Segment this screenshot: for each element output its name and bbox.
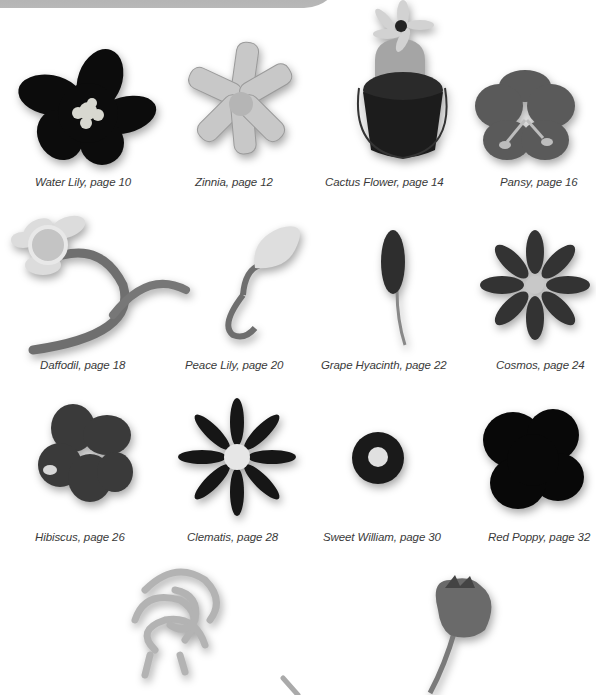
clematis-image	[180, 400, 295, 515]
tulip-bud-image	[420, 570, 500, 693]
zinnia-image	[175, 38, 305, 168]
caption-grape-hyacinth: Grape Hyacinth, page 22	[321, 359, 447, 371]
pansy-image	[475, 68, 575, 163]
red-poppy-image	[478, 405, 588, 515]
caption-daffodil: Daffodil, page 18	[40, 359, 125, 371]
caption-red-poppy: Red Poppy, page 32	[488, 531, 590, 543]
daffodil-image	[8, 205, 188, 355]
cosmos-image	[480, 230, 590, 340]
caption-zinnia: Zinnia, page 12	[195, 176, 273, 188]
caption-cosmos: Cosmos, page 24	[496, 359, 585, 371]
caption-cactus-flower: Cactus Flower, page 14	[325, 176, 444, 188]
peace-lily-image	[215, 220, 305, 345]
caption-hibiscus: Hibiscus, page 26	[35, 531, 125, 543]
sweet-william-image	[350, 430, 406, 486]
stem-fragment-image	[280, 675, 305, 695]
caption-sweet-william: Sweet William, page 30	[323, 531, 441, 543]
curly-flower-image	[125, 560, 240, 680]
hibiscus-image	[35, 400, 135, 505]
grape-hyacinth-image	[375, 230, 420, 350]
cactus-flower-image	[345, 0, 455, 165]
header-banner	[0, 0, 342, 8]
caption-pansy: Pansy, page 16	[500, 176, 578, 188]
water-lily-image	[20, 45, 150, 165]
caption-clematis: Clematis, page 28	[187, 531, 278, 543]
caption-water-lily: Water Lily, page 10	[35, 176, 131, 188]
caption-peace-lily: Peace Lily, page 20	[185, 359, 283, 371]
